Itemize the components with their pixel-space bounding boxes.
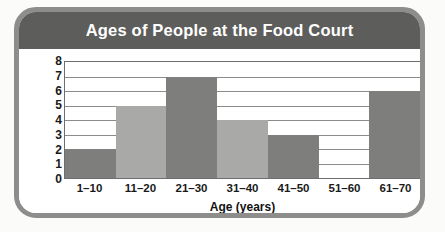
x-axis-tick-label: 1–10: [64, 182, 115, 194]
y-axis-tick-3: 3: [46, 129, 62, 141]
bar-slot-21-30: [166, 62, 217, 178]
y-axis-tick-1: 1: [46, 158, 62, 170]
bar-series: [65, 62, 420, 178]
y-axis-tick-6: 6: [46, 85, 62, 97]
chart-frame: Ages of People at the Food Court Number …: [14, 7, 425, 218]
x-axis-tick-label: 31–40: [217, 182, 268, 194]
y-axis-tick-4: 4: [46, 114, 62, 126]
bar-slot-1-10: [65, 62, 116, 178]
bar[interactable]: [268, 135, 319, 179]
bar[interactable]: [217, 120, 268, 178]
chart-body: Number of People 876543210 1–1011–2021–3…: [19, 50, 420, 213]
chart-title-bar: Ages of People at the Food Court: [18, 11, 421, 49]
bar[interactable]: [369, 91, 420, 178]
x-axis-title: Age (years): [64, 200, 421, 214]
x-axis-tick-label: 11–20: [115, 182, 166, 194]
x-axis-tick-label: 51–60: [319, 182, 370, 194]
bar-slot-31-40: [217, 62, 268, 178]
y-axis-tick-7: 7: [46, 70, 62, 82]
bar-slot-51-60: [319, 62, 370, 178]
bar-slot-61-70: [369, 62, 420, 178]
y-axis-tick-2: 2: [46, 144, 62, 156]
bar[interactable]: [166, 77, 217, 179]
bar-slot-11-20: [116, 62, 167, 178]
bar-slot-41-50: [268, 62, 319, 178]
x-axis-tick-label: 61–70: [370, 182, 421, 194]
y-axis-tick-5: 5: [46, 99, 62, 111]
x-axis-tick-label: 41–50: [268, 182, 319, 194]
bar[interactable]: [65, 149, 116, 178]
x-axis-tick-labels: 1–1011–2021–3031–4041–5051–6061–70: [64, 182, 421, 194]
y-axis-tick-0: 0: [46, 173, 62, 185]
bar[interactable]: [116, 106, 167, 179]
y-axis-tick-8: 8: [46, 55, 62, 67]
y-axis-tick-labels: 876543210: [46, 61, 62, 179]
x-axis-tick-label: 21–30: [166, 182, 217, 194]
page-title: Ages of People at the Food Court: [86, 21, 354, 40]
plot-area: [64, 61, 421, 179]
